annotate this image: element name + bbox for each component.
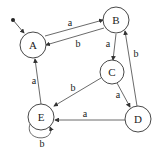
- initial-arrow: [11, 18, 24, 33]
- state-label-e: E: [38, 111, 45, 123]
- edge-label-e-e: b: [40, 138, 45, 149]
- state-label-a: A: [29, 39, 37, 51]
- edge-label-d-e: a: [83, 108, 88, 119]
- edge-c-e: [54, 78, 101, 106]
- edge-a-b: [45, 20, 103, 36]
- state-label-d: D: [134, 113, 142, 125]
- edge-label-b-c: a: [106, 38, 111, 49]
- edge-label-c-d: a: [116, 89, 121, 100]
- edge-b-c: [113, 34, 116, 60]
- edge-label-e-a: a: [32, 75, 37, 86]
- state-label-b: B: [112, 14, 119, 26]
- edge-label-a-b: a: [68, 17, 73, 28]
- edge-label-d-b: b: [134, 48, 139, 59]
- state-diagram: A B C D E a b a a b a b a b: [0, 0, 161, 154]
- edge-d-b: [125, 31, 137, 106]
- state-label-c: C: [108, 66, 115, 78]
- edge-label-b-a: b: [76, 38, 81, 49]
- edge-label-c-e: b: [71, 82, 76, 93]
